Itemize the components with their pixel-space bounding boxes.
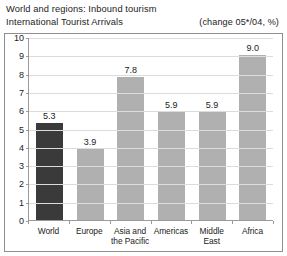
y-tick-label: 6 [19, 107, 24, 116]
bar-value-label: 9.0 [246, 44, 259, 53]
chart-header: World and regions: Inbound tourism Inter… [6, 3, 281, 29]
y-axis-labels: 012345678910 [6, 38, 24, 221]
y-tick-label: 5 [19, 125, 24, 134]
x-tick-label: World [28, 226, 69, 246]
y-tick-mark [26, 203, 29, 204]
gridline [29, 75, 273, 76]
bar[interactable]: 9.0 [239, 55, 266, 220]
bar-value-label: 5.9 [165, 101, 178, 110]
x-tick-mark [28, 221, 29, 224]
x-tick-mark [151, 221, 152, 224]
chart-page: World and regions: Inbound tourism Inter… [0, 0, 287, 256]
x-tick-label: Europe [69, 226, 110, 246]
bar-value-label: 5.3 [43, 112, 56, 121]
x-axis-labels: WorldEuropeAsia and the PacificAmericasM… [28, 226, 273, 246]
y-tick-label: 10 [14, 34, 24, 43]
y-tick-label: 2 [19, 180, 24, 189]
gridline [29, 56, 273, 57]
y-tick-mark [26, 166, 29, 167]
y-tick-mark [26, 111, 29, 112]
gridline [29, 111, 273, 112]
bar-value-label: 3.9 [84, 138, 97, 147]
x-tick-label: Asia and the Pacific [110, 226, 151, 246]
chart-title: World and regions: Inbound tourism [6, 3, 281, 16]
y-tick-label: 7 [19, 88, 24, 97]
y-tick-label: 4 [19, 143, 24, 152]
bar[interactable]: 5.3 [36, 123, 63, 220]
change-note: (change 05*/04, %) [199, 16, 281, 29]
x-tick-label: Africa [232, 226, 273, 246]
x-tick-mark [191, 221, 192, 224]
x-tick-label: Americas [150, 226, 191, 246]
gridline [29, 38, 273, 39]
gridline [29, 130, 273, 131]
gridline [29, 203, 273, 204]
gridline [29, 148, 273, 149]
y-tick-label: 9 [19, 52, 24, 61]
y-tick-label: 3 [19, 162, 24, 171]
y-tick-mark [26, 148, 29, 149]
gridline [29, 93, 273, 94]
y-tick-mark [26, 184, 29, 185]
y-tick-mark [26, 93, 29, 94]
y-tick-label: 8 [19, 70, 24, 79]
x-tick-mark [273, 221, 274, 224]
x-tick-label: Middle East [191, 226, 232, 246]
y-tick-mark [26, 75, 29, 76]
plot-area: 5.33.97.85.95.99.0 [28, 38, 273, 221]
x-tick-mark [232, 221, 233, 224]
x-tick-mark [110, 221, 111, 224]
bar-value-label: 5.9 [206, 101, 219, 110]
y-tick-mark [26, 56, 29, 57]
y-tick-mark [26, 38, 29, 39]
gridline [29, 184, 273, 185]
y-tick-mark [26, 130, 29, 131]
x-tick-mark [69, 221, 70, 224]
chart-subtitle: International Tourist Arrivals [6, 16, 123, 29]
gridline [29, 166, 273, 167]
chart-subtitle-row: International Tourist Arrivals (change 0… [6, 16, 281, 29]
y-tick-label: 1 [19, 198, 24, 207]
plot-wrapper: 012345678910 5.33.97.85.95.99.0 WorldEur… [4, 33, 283, 252]
x-axis-ticks [28, 221, 273, 225]
y-tick-label: 0 [19, 217, 24, 226]
